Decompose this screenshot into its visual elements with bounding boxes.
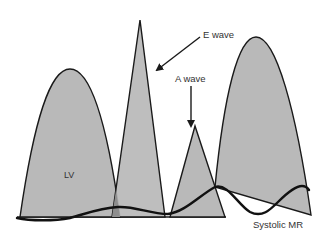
- e-wave-shape: [112, 20, 165, 217]
- e-wave-label: E wave: [203, 29, 234, 40]
- systolic-mr-label: Systolic MR: [253, 219, 303, 230]
- e-wave-arrow: [157, 37, 200, 70]
- doppler-diagram: E wave A wave LV Systolic MR: [0, 0, 328, 238]
- lv-label: LV: [64, 170, 74, 180]
- lv-envelope: [20, 69, 120, 217]
- a-wave-label: A wave: [175, 73, 206, 84]
